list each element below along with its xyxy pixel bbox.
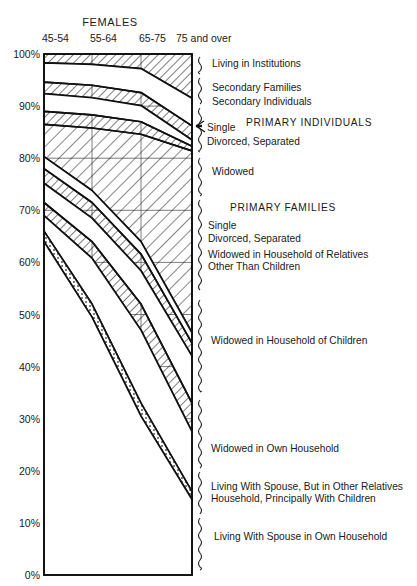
- label-pf-divorced-separated: Divorced, Separated: [208, 233, 301, 246]
- area-bands: [44, 54, 192, 575]
- legend-braces: [199, 57, 202, 570]
- label-pi-widowed: Widowed: [212, 166, 254, 179]
- label-secondary-individuals: Secondary Individuals: [212, 96, 312, 109]
- label-pf-spouse-other-line2: Household, Principally With Children: [211, 493, 376, 506]
- label-pf-spouse-own-household: Living With Spouse in Own Household: [214, 531, 387, 544]
- label-group-primary-families: PRIMARY FAMILIES: [230, 202, 336, 215]
- label-pf-single: Single: [208, 220, 236, 233]
- label-pf-widowed-household-children: Widowed in Household of Children: [211, 335, 367, 348]
- chart-canvas: FEMALES 45-5455-6465-7575 and over 100%9…: [0, 0, 417, 586]
- label-pf-widowed-relatives-line2: Other Than Children: [208, 261, 300, 274]
- label-pi-single: Single: [207, 122, 235, 135]
- label-secondary-families: Secondary Families: [212, 82, 301, 95]
- label-pf-spouse-other-line1: Living With Spouse, But in Other Relativ…: [211, 481, 403, 494]
- label-pi-divorced-separated: Divorced, Separated: [207, 136, 300, 149]
- label-pf-widowed-own-household: Widowed in Own Household: [211, 443, 339, 456]
- label-group-primary-individuals: PRIMARY INDIVIDUALS: [246, 117, 372, 130]
- label-pf-widowed-relatives-line1: Widowed in Household of Relatives: [208, 249, 368, 262]
- label-living-in-institutions: Living in Institutions: [212, 58, 301, 71]
